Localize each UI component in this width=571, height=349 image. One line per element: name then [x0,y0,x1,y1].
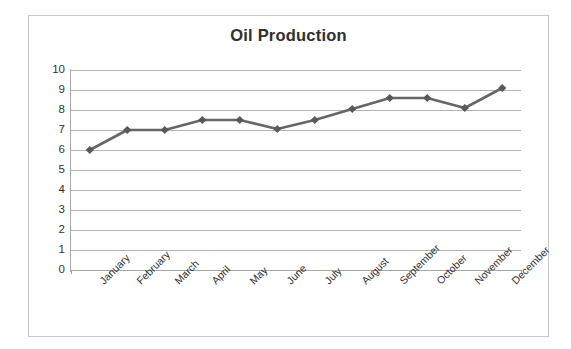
data-point-marker [311,116,319,124]
plot-area [71,70,521,270]
y-tick-label-8: 8 [39,104,65,116]
y-tick-label-2: 2 [39,224,65,236]
chart-title: Oil Production [29,26,548,45]
data-point-marker [161,126,169,134]
y-tick-label-9: 9 [39,84,65,96]
y-tick-label-10: 10 [39,64,65,76]
data-point-marker [236,116,244,124]
y-tick-label-6: 6 [39,144,65,156]
y-tick-label-3: 3 [39,204,65,216]
data-point-marker [348,105,356,113]
y-tick-label-1: 1 [39,244,65,256]
series-line [90,88,503,150]
x-axis-tick-labels: JanuaryFebruaryMarchAprilMayJuneJulyAugu… [71,272,521,338]
data-point-marker [198,116,206,124]
y-axis-tick-labels: 012345678910 [35,70,65,270]
data-point-marker [423,94,431,102]
data-point-marker [273,125,281,133]
y-tick-label-0: 0 [39,264,65,276]
y-tick-label-5: 5 [39,164,65,176]
y-tick-label-7: 7 [39,124,65,136]
chart-container: Oil Production 012345678910 JanuaryFebru… [28,15,549,337]
data-point-marker [386,94,394,102]
y-tick-label-4: 4 [39,184,65,196]
line-series [71,70,521,270]
